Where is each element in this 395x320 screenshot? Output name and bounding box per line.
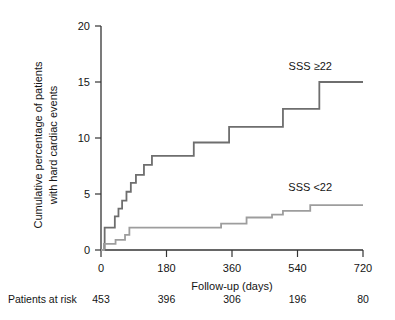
risk-value-720: 80 [357,293,369,305]
y-tick-label-10: 10 [78,132,90,144]
chart-container: Cumulative percentage of patients with h… [0,0,395,320]
y-axis-title: Cumulative percentage of patients with h… [32,61,59,228]
risk-value-0: 453 [92,293,110,305]
y-axis-title-line2: with hard cardiac events [47,85,59,205]
patients-at-risk-table: Patients at risk 453 396 306 196 80 [8,293,369,305]
series-label-sss-low: SSS <22 [288,181,332,193]
x-tick-label-540: 540 [288,262,306,274]
y-axis-ticks: 20 15 10 5 0 [78,20,101,256]
x-axis-title: Follow-up (days) [191,280,272,292]
risk-value-360: 306 [223,293,241,305]
y-axis-title-line1: Cumulative percentage of patients [32,61,44,228]
x-axis-ticks: 0 180 360 540 720 [98,250,372,274]
y-tick-label-5: 5 [84,188,90,200]
x-tick-label-720: 720 [354,262,372,274]
x-tick-label-0: 0 [98,262,104,274]
series-line-sss-low [101,205,363,250]
risk-value-540: 196 [289,293,307,305]
y-tick-label-0: 0 [84,244,90,256]
series-line-sss-high [101,82,363,250]
x-tick-label-180: 180 [157,262,175,274]
y-tick-label-20: 20 [78,20,90,32]
risk-table-label: Patients at risk [8,293,78,305]
x-tick-label-360: 360 [223,262,241,274]
y-tick-label-15: 15 [78,76,90,88]
risk-value-180: 396 [158,293,176,305]
survival-chart-svg: Cumulative percentage of patients with h… [0,0,395,320]
series-label-sss-high: SSS ≥22 [289,60,332,72]
